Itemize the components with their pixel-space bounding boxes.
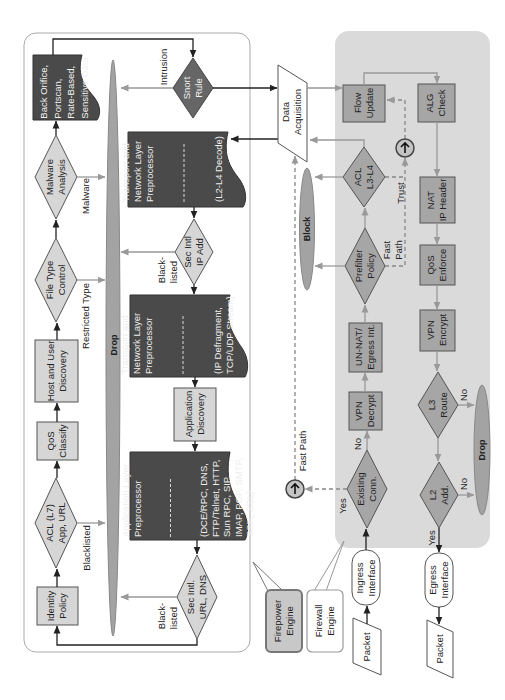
stream-preprocessor-label: Transport and Network Layer Preprocessor… xyxy=(95,298,248,374)
egress-interface-label: Egress Interface xyxy=(427,562,451,599)
firepower-engine-callout-label: Firepower Engine xyxy=(272,600,296,642)
blacklisted-edge-label: Blacklisted xyxy=(81,525,93,570)
app-layer-preprocessor-title: Application Layer Preprocessor xyxy=(120,455,143,537)
snort-rule-label: Snort Rule xyxy=(181,77,205,100)
fast-path-edge-label: Fast Path xyxy=(297,431,309,472)
un-nat-label: UN-NAT/ Egress Int. xyxy=(353,324,377,369)
l2l4-preprocessor-title: Transport and Network Layer Preprocessor xyxy=(120,136,156,202)
existing-conn-yes-label: Yes xyxy=(337,498,349,514)
packet-out-label: Packet xyxy=(434,634,446,663)
data-acquisition-label: Data Acquisition xyxy=(280,89,304,135)
blacklisted-url-edge-label: Black- listed xyxy=(156,603,180,629)
existing-conn-label: Existing Conn. xyxy=(355,472,379,505)
file-type-control-label: File Type Control xyxy=(44,261,68,299)
l2l4-preprocessor-label: Transport and Network Layer Preprocessor… xyxy=(96,136,237,202)
stream-preprocessor-title: Transport and Network Layer Preprocessor xyxy=(119,298,155,374)
vpn-decrypt-label: VPN Decrypt xyxy=(353,395,377,428)
l2-add-no-label: No xyxy=(458,478,470,490)
acl-l3l4-label: ACL L3-L4 xyxy=(352,165,376,189)
qos-classify-label: QoS Classify xyxy=(45,424,69,457)
prefilter-policy-label: Prefilter Policy xyxy=(353,250,377,283)
identity-policy-label: Identity Policy xyxy=(45,591,69,622)
firepower-threat-defense-flow-diagram: Back Orifice, Portscan, Rate-Based, Sens… xyxy=(0,0,505,700)
existing-conn-no-label: No xyxy=(352,438,364,450)
trust-fast-path-up-arrow-icon xyxy=(396,139,414,157)
l3-route-no-label: No xyxy=(458,389,470,401)
stream-preprocessor-divider xyxy=(183,316,184,374)
firewall-engine-callout-label: Firewall Engine xyxy=(313,605,337,638)
firewall-callout-pointer xyxy=(314,541,344,591)
nat-ip-header-label: NAT IP Header xyxy=(425,179,449,222)
vpn-encrypt-label: VPN Encrypt xyxy=(425,314,449,346)
sec-intel-url-dns-label: Sec Intl. URL, DNS xyxy=(185,575,209,619)
application-discovery-label: Application Discovery xyxy=(183,391,207,437)
app-layer-preprocessor-divider xyxy=(170,479,171,537)
malware-analysis-label: Malware Analysis xyxy=(44,159,68,195)
firewall-drop-label: Drop xyxy=(476,440,488,461)
alg-check-label: ALG Check xyxy=(424,90,448,117)
acl-l7-label: ACL (L7) App, URL xyxy=(44,502,68,543)
flow-update-label: Flow Update xyxy=(352,88,376,119)
host-user-discovery-label: Host and User Discovery xyxy=(45,341,69,402)
trust-edge-label: Trust xyxy=(395,182,407,203)
sec-intel-ip-label: Sec Intl IP Add xyxy=(182,236,206,268)
l2-add-label: L2 Add. xyxy=(427,485,451,505)
app-layer-preprocessor-detail: (DCE/RPC, DNS, FTP/Telnet, HTTP, Sun RPC… xyxy=(198,455,256,537)
intrusion-edge-label: Intrusion xyxy=(158,49,170,85)
block-label: Block xyxy=(301,217,313,242)
l2-add-yes-label: Yes xyxy=(426,530,438,546)
app-layer-preprocessor-label: Application Layer Preprocessor (DCE/RPC,… xyxy=(97,455,267,537)
qos-enforce-label: QoS Enforce xyxy=(425,249,449,282)
prefilter-fast-path-edge-label: Fast Path xyxy=(381,240,405,260)
firepower-callout-pointer xyxy=(253,562,283,591)
ingress-interface-label: Ingress Interface xyxy=(354,560,378,597)
malware-edge-label: Malware xyxy=(80,178,92,214)
blacklisted-ip-edge-label: Black- listed xyxy=(156,257,180,283)
existing-conn-fast-path-up-arrow-icon xyxy=(286,480,304,498)
stream-preprocessor-detail: (IP Defragment, TCP/UDP Stream) xyxy=(212,298,236,374)
restricted-type-edge-label: Restricted Type xyxy=(80,283,92,349)
l2l4-preprocessor-divider xyxy=(184,144,185,202)
intrusion-preprocessor-label: Back Orifice, Portscan, Rate-Based, Sens… xyxy=(37,57,91,118)
packet-in-label: Packet xyxy=(361,632,373,661)
l2l4-preprocessor-detail: (L2-L4 Decode) xyxy=(213,136,225,202)
l3-route-label: L3 Route xyxy=(426,392,450,417)
